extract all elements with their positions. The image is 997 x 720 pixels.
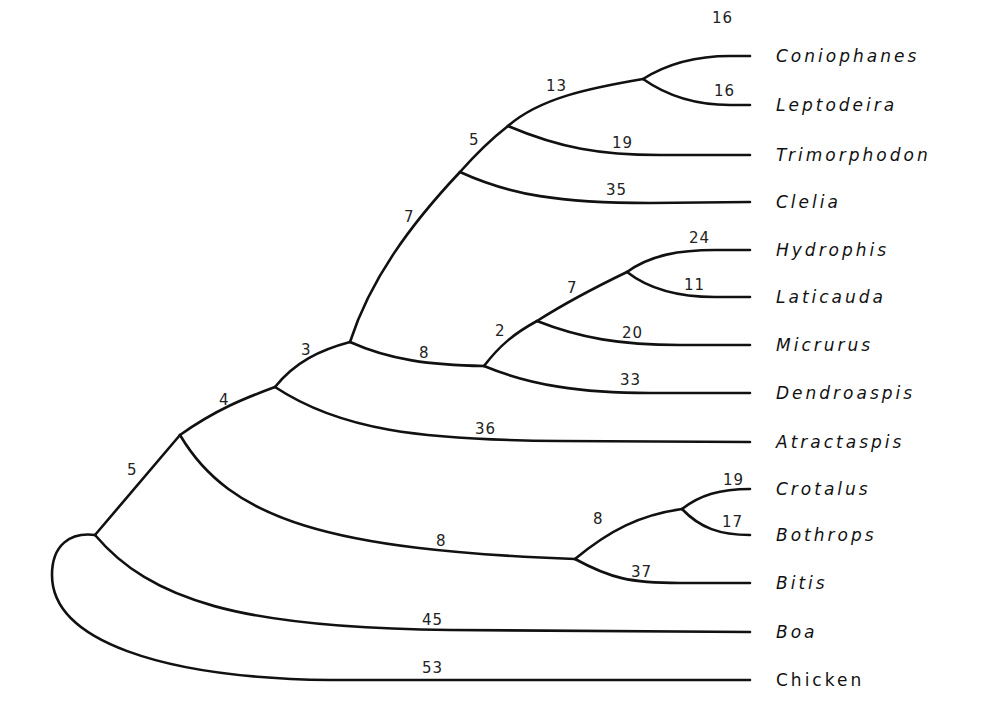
- label-caenophidian-stem-length: 4: [219, 391, 230, 409]
- branch-atractaspis: [275, 387, 750, 442]
- branch-elapid-inner-stem: [484, 321, 537, 366]
- taxon-trimorphodon: Trimorphodon: [776, 145, 931, 165]
- branch-elapid-stem: [350, 342, 484, 366]
- branch-viperid-stem: [180, 435, 575, 559]
- taxon-micrurus: Micrurus: [776, 335, 873, 355]
- label-crot-both-stem-length: 8: [593, 510, 604, 528]
- taxon-bothrops: Bothrops: [776, 525, 877, 545]
- label-elapid-stem-length: 8: [419, 344, 430, 362]
- taxon-laticauda: Laticauda: [776, 287, 886, 307]
- taxon-coniophanes: Coniophanes: [776, 46, 919, 66]
- taxon-leptodeira: Leptodeira: [776, 95, 897, 115]
- branch-coniophanes-leptodeira-stem: [508, 79, 643, 126]
- taxon-dendroaspis: Dendroaspis: [776, 383, 915, 403]
- branch-colubrid-stem: [350, 172, 460, 342]
- taxon-labels: Coniophanes Leptodeira Trimorphodon Clel…: [775, 46, 931, 690]
- branch-chicken: [52, 535, 750, 680]
- label-chicken-length: 53: [422, 659, 443, 677]
- taxon-atractaspis: Atractaspis: [775, 432, 904, 452]
- taxon-bitis: Bitis: [776, 573, 828, 593]
- taxon-hydrophis: Hydrophis: [776, 240, 889, 260]
- branch-crotalus-bothrops-stem: [575, 509, 682, 559]
- label-viperid-stem-length: 8: [436, 532, 447, 550]
- branch-coniophanes: [643, 56, 750, 79]
- label-clelia-length: 35: [606, 181, 627, 199]
- branch-micrurus: [537, 321, 750, 345]
- label-colubrid-stem-length: 7: [404, 208, 415, 226]
- branch-clelia: [460, 172, 750, 203]
- label-advanced-stem-length: 5: [127, 461, 138, 479]
- taxon-chicken: Chicken: [776, 670, 864, 690]
- label-hyd-lat-stem-length: 7: [567, 279, 578, 297]
- branch-length-labels: 16 16 13 19 5 35 7 24 11 7 20 2 33 8 3 3…: [127, 9, 744, 677]
- branch-crotalus: [682, 489, 750, 509]
- label-leptodeira-length: 16: [714, 82, 735, 100]
- taxon-boa: Boa: [776, 622, 817, 642]
- branch-colubroid-stem: [275, 342, 350, 387]
- branch-hydrophis: [627, 250, 750, 272]
- label-con-lep-stem-length: 13: [546, 77, 567, 95]
- branch-bitis: [575, 559, 750, 583]
- label-atractaspis-length: 36: [475, 420, 496, 438]
- label-crotalus-length: 19: [723, 471, 744, 489]
- label-trimorphodon-length: 19: [612, 134, 633, 152]
- label-colubrid-inner-stem-length: 5: [469, 131, 480, 149]
- label-bothrops-length: 17: [722, 513, 743, 531]
- label-elapid-inner-stem-length: 2: [495, 322, 506, 340]
- label-bitis-length: 37: [631, 563, 652, 581]
- label-micrurus-length: 20: [622, 324, 643, 342]
- branch-colubrid-inner-stem: [460, 126, 508, 172]
- taxon-crotalus: Crotalus: [776, 479, 871, 499]
- label-hydrophis-length: 24: [689, 229, 710, 247]
- label-laticauda-length: 11: [684, 276, 705, 294]
- taxon-clelia: Clelia: [776, 192, 841, 212]
- label-boa-length: 45: [422, 611, 443, 629]
- branches: [52, 56, 750, 680]
- label-colubroid-stem-length: 3: [301, 341, 312, 359]
- branch-hydrophis-laticauda-stem: [537, 272, 627, 321]
- branch-advanced-stem: [95, 435, 180, 535]
- branch-dendroaspis: [484, 366, 750, 393]
- label-dendroaspis-length: 33: [620, 371, 641, 389]
- phylogenetic-tree: 16 16 13 19 5 35 7 24 11 7 20 2 33 8 3 3…: [0, 0, 997, 720]
- label-coniophanes-length: 16: [712, 9, 733, 27]
